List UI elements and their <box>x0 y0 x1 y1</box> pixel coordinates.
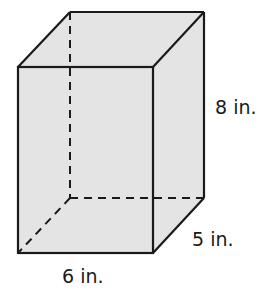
rectangular-prism-diagram: 8 in. 5 in. 6 in. <box>0 0 273 297</box>
width-label: 6 in. <box>62 265 104 287</box>
height-label: 8 in. <box>215 96 257 118</box>
depth-label: 5 in. <box>192 228 234 250</box>
prism-body-fill <box>18 12 204 253</box>
